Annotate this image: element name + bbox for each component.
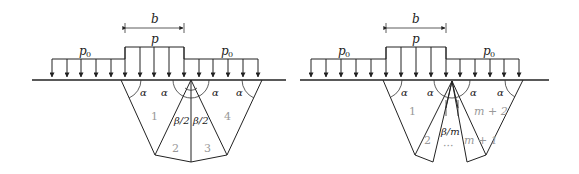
region-1: 1	[409, 105, 416, 118]
svg-text:0: 0	[345, 50, 350, 59]
surcharge-right-label: p 0	[221, 44, 233, 59]
bearing-capacity-diagrams: b p p 0	[0, 0, 579, 174]
angle-alpha-4: α	[236, 87, 243, 98]
svg-text:0: 0	[228, 50, 233, 59]
angle-alpha-2: α	[427, 87, 434, 98]
region-m-plus-2: m + 2	[474, 105, 508, 118]
angle-alpha-3: α	[212, 87, 219, 98]
surcharge-right-label: p 0	[483, 44, 495, 59]
region-2: 2	[172, 142, 179, 155]
svg-text:0: 0	[86, 50, 91, 59]
fan-angle-right: β/2	[192, 115, 209, 126]
load-label: p	[151, 32, 159, 46]
region-1: 1	[151, 110, 158, 123]
load-label: p	[412, 32, 420, 46]
angle-alpha-1: α	[401, 87, 408, 98]
left-panel: b p p 0	[32, 12, 286, 162]
width-dimension: b	[125, 12, 184, 33]
fan-angle: β/m	[440, 126, 460, 137]
fan-angle-left: β/2	[173, 115, 190, 126]
region-4: 4	[224, 110, 231, 123]
angle-alpha-1: α	[140, 87, 147, 98]
surcharge-left-label: p 0	[79, 44, 91, 59]
width-dimension: b	[386, 12, 446, 33]
right-panel: b p p 0	[300, 12, 549, 162]
width-label: b	[412, 12, 420, 26]
region-m-plus-1: m + 1	[464, 134, 498, 147]
region-3: 3	[204, 142, 211, 155]
angle-alpha-3: α	[470, 87, 477, 98]
fan-ellipsis: ···	[443, 140, 454, 153]
surcharge-left-label: p 0	[338, 44, 350, 59]
svg-text:0: 0	[490, 50, 495, 59]
width-label: b	[151, 12, 159, 26]
region-2: 2	[424, 134, 431, 147]
angle-alpha-4: α	[497, 87, 504, 98]
angle-alpha-2: α	[161, 87, 168, 98]
